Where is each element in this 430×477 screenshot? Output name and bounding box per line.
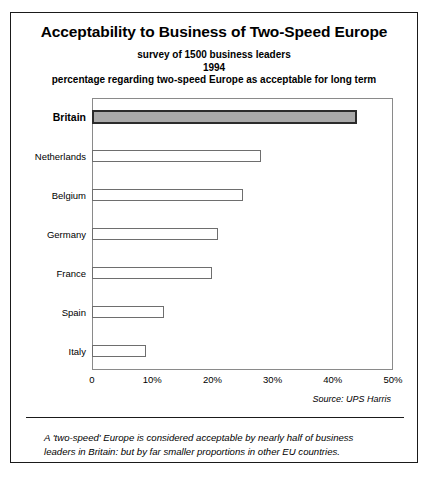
- bar-spain: [92, 306, 164, 318]
- category-label-germany: Germany: [0, 229, 86, 240]
- category-label-netherlands: Netherlands: [0, 151, 86, 162]
- bar-france: [92, 267, 212, 279]
- bar-chart: BritainNetherlandsBelgiumGermanyFranceSp…: [11, 13, 419, 464]
- bar-row: [92, 98, 393, 137]
- bar-britain: [92, 110, 357, 124]
- bar-germany: [92, 228, 218, 240]
- footnote-line-1: A 'two-speed' Europe is considered accep…: [26, 431, 404, 445]
- category-label-britain: Britain: [0, 112, 86, 123]
- footnote-line-2: leaders in Britain: but by far smaller p…: [26, 445, 404, 459]
- category-label-spain: Spain: [0, 306, 86, 317]
- bar-netherlands: [92, 150, 261, 162]
- footnote-block: A 'two-speed' Europe is considered accep…: [26, 417, 404, 458]
- category-label-italy: Italy: [0, 345, 86, 356]
- x-tick-0: 0: [89, 374, 94, 385]
- bar-row: [92, 253, 393, 292]
- category-label-belgium: Belgium: [0, 190, 86, 201]
- bar-row: [92, 176, 393, 215]
- x-tick-10pct: 10%: [143, 374, 162, 385]
- x-tick-20pct: 20%: [203, 374, 222, 385]
- category-label-france: France: [0, 267, 86, 278]
- bar-belgium: [92, 189, 243, 201]
- source-note: Source: UPS Harris: [312, 394, 391, 404]
- x-tick-40pct: 40%: [323, 374, 342, 385]
- bar-row: [92, 215, 393, 254]
- bar-row: [92, 137, 393, 176]
- bar-row: [92, 331, 393, 370]
- bar-italy: [92, 345, 146, 357]
- x-tick-30pct: 30%: [263, 374, 282, 385]
- bar-row: [92, 292, 393, 331]
- x-tick-50pct: 50%: [383, 374, 402, 385]
- chart-card: Acceptability to Business of Two-Speed E…: [10, 12, 418, 463]
